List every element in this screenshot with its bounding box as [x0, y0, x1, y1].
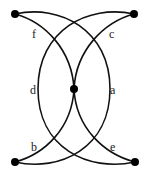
- node-top-left: [11, 10, 19, 18]
- node-bottom-left: [11, 158, 19, 166]
- edge-e: [74, 89, 135, 162]
- edge-label-d: d: [30, 83, 36, 97]
- edge-label-a: a: [110, 83, 116, 97]
- edge-label-e: e: [110, 140, 115, 154]
- edge-c: [74, 14, 134, 89]
- edge-d: [38, 12, 135, 164]
- node-top-right: [130, 10, 138, 18]
- node-center: [70, 85, 78, 93]
- graph-diagram: f c d a b e: [0, 0, 148, 176]
- edge-f: [15, 14, 74, 89]
- node-bottom-right: [131, 158, 139, 166]
- edge-b: [15, 89, 74, 162]
- edge-label-f: f: [32, 27, 36, 41]
- edge-label-b: b: [31, 140, 37, 154]
- edge-label-c: c: [109, 27, 114, 41]
